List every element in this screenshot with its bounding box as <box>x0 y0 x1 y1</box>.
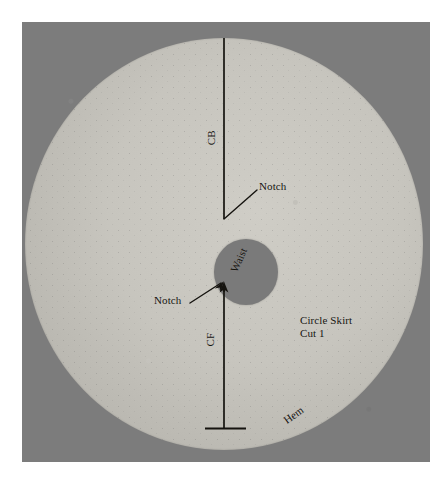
label-center-front: CF <box>204 333 217 347</box>
label-center-back: CB <box>205 130 218 145</box>
fabric-dot-texture <box>25 38 423 450</box>
pattern-piece-cut-count: Cut 1 <box>300 327 352 340</box>
circle-skirt-fabric-disc <box>25 38 423 450</box>
figure-caption-cropped <box>26 470 416 480</box>
pattern-piece-caption: Circle Skirt Cut 1 <box>300 314 352 341</box>
label-notch-bottom: Notch <box>154 294 181 307</box>
pattern-diagram-figure: CB CF Notch Notch Waist Hem Circle Skirt… <box>0 0 448 482</box>
pattern-piece-name: Circle Skirt <box>300 314 352 327</box>
photo-backdrop-panel <box>22 22 430 462</box>
label-notch-top: Notch <box>259 180 286 193</box>
